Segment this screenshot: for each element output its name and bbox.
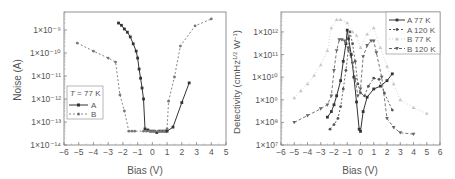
svg-text:1×10¹²: 1×10¹² bbox=[253, 27, 278, 37]
svg-text:1×10⁹: 1×10⁹ bbox=[255, 95, 278, 105]
svg-text:0: 0 bbox=[150, 147, 155, 157]
svg-text:1×10⁸: 1×10⁸ bbox=[255, 117, 278, 127]
svg-text:B 77 K: B 77 K bbox=[407, 35, 432, 44]
svg-text:−4: −4 bbox=[89, 147, 99, 157]
svg-text:1×10⁻¹²: 1×10⁻¹² bbox=[31, 94, 61, 104]
svg-text:5: 5 bbox=[424, 147, 429, 157]
y-axis-ticks: 1×10⁻¹⁴1×10⁻¹³1×10⁻¹²1×10⁻¹¹1×10⁻¹⁰1×10⁻… bbox=[30, 12, 67, 150]
svg-text:B 120 K: B 120 K bbox=[407, 45, 436, 54]
svg-text:5: 5 bbox=[224, 147, 229, 157]
svg-text:A 120 K: A 120 K bbox=[407, 26, 436, 35]
legend-item-b: B bbox=[91, 110, 96, 119]
noise-chart: −6−5−4−3−2−1012345 1×10⁻¹⁴1×10⁻¹³1×10⁻¹²… bbox=[12, 12, 229, 176]
svg-text:−1: −1 bbox=[342, 147, 352, 157]
svg-text:1: 1 bbox=[371, 147, 376, 157]
svg-text:−4: −4 bbox=[303, 147, 313, 157]
svg-text:1×10⁻⁹: 1×10⁻⁹ bbox=[33, 25, 61, 35]
svg-text:1×10⁻¹¹: 1×10⁻¹¹ bbox=[31, 71, 61, 81]
x-axis-ticks: −6−5−4−3−2−1012345 bbox=[59, 142, 228, 157]
svg-text:1: 1 bbox=[165, 147, 170, 157]
y-axis-label: Noise (A) bbox=[12, 59, 23, 101]
x-axis-label: Bias (V) bbox=[127, 165, 163, 176]
y-axis-label: Detectivity (cmHz1/2 W−1) bbox=[231, 30, 242, 134]
svg-text:−5: −5 bbox=[289, 147, 299, 157]
svg-text:1×10¹⁰: 1×10¹⁰ bbox=[252, 72, 278, 82]
series-a bbox=[117, 22, 190, 134]
legend-item-a: A bbox=[91, 101, 97, 110]
series-a-77-k bbox=[326, 29, 394, 133]
svg-text:0: 0 bbox=[358, 147, 363, 157]
svg-text:−3: −3 bbox=[103, 147, 113, 157]
x-axis-label: Bias (V) bbox=[342, 165, 378, 176]
svg-text:−3: −3 bbox=[316, 147, 326, 157]
detectivity-chart: −6−5−4−3−2−10123456 1×10⁷1×10⁸1×10⁹1×10¹… bbox=[231, 12, 443, 176]
svg-text:4: 4 bbox=[411, 147, 416, 157]
x-axis-ticks: −6−5−4−3−2−10123456 bbox=[276, 142, 442, 157]
svg-text:2: 2 bbox=[385, 147, 390, 157]
svg-text:1×10¹¹: 1×10¹¹ bbox=[253, 50, 278, 60]
svg-text:−1: −1 bbox=[133, 147, 143, 157]
svg-text:−5: −5 bbox=[74, 147, 84, 157]
svg-text:A 77 K: A 77 K bbox=[407, 16, 431, 25]
svg-text:−2: −2 bbox=[329, 147, 339, 157]
svg-text:1×10⁻¹³: 1×10⁻¹³ bbox=[31, 117, 61, 127]
svg-text:3: 3 bbox=[398, 147, 403, 157]
svg-text:4: 4 bbox=[209, 147, 214, 157]
legend: T = 77 K A B bbox=[67, 86, 103, 119]
svg-text:1×10⁷: 1×10⁷ bbox=[256, 140, 278, 150]
legend: A 77 KA 120 KB 77 KB 120 K bbox=[386, 12, 440, 54]
svg-text:−2: −2 bbox=[118, 147, 128, 157]
svg-text:6: 6 bbox=[438, 147, 443, 157]
svg-text:2: 2 bbox=[179, 147, 184, 157]
chart-figure: −6−5−4−3−2−1012345 1×10⁻¹⁴1×10⁻¹³1×10⁻¹²… bbox=[0, 0, 455, 179]
svg-text:1×10⁻¹⁴: 1×10⁻¹⁴ bbox=[30, 140, 61, 150]
svg-text:1×10⁻¹⁰: 1×10⁻¹⁰ bbox=[30, 48, 61, 58]
svg-text:3: 3 bbox=[194, 147, 199, 157]
legend-title: T = 77 K bbox=[70, 89, 101, 98]
y-axis-ticks: 1×10⁷1×10⁸1×10⁹1×10¹⁰1×10¹¹1×10¹² bbox=[252, 13, 284, 150]
